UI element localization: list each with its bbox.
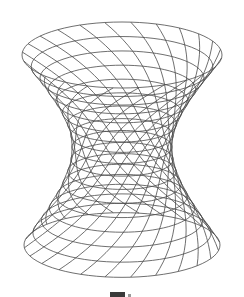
ruling-line <box>131 22 186 271</box>
ruling-line <box>31 69 163 216</box>
hyperboloid-figure <box>0 0 244 297</box>
ruling-line <box>24 74 204 248</box>
ruling-line <box>58 30 219 251</box>
latitude-ring <box>24 213 220 278</box>
caption-glyph <box>110 292 125 297</box>
latitude-rings <box>22 22 222 277</box>
ruling-line <box>156 24 177 275</box>
latitude-ring <box>33 203 211 262</box>
ruling-line <box>42 58 222 264</box>
ruling-lines <box>22 22 221 277</box>
ruling-line <box>80 25 211 259</box>
ruling-line <box>24 61 185 221</box>
ruling-line <box>81 41 213 274</box>
latitude-ring <box>22 22 222 88</box>
latitude-ring <box>40 51 204 105</box>
